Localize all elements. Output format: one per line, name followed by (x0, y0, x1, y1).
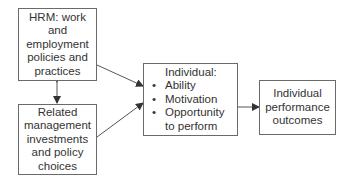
individual-box: Individual: Ability Motivation Opportuni… (143, 63, 238, 136)
arrow-hrm-individual (97, 65, 143, 86)
performance-outcomes-label: Individual performance outcomes (265, 87, 330, 127)
individual-title: Individual: (150, 66, 224, 79)
hrm-policies-label: HRM: work and employment policies and pr… (26, 11, 89, 78)
factor-ability: Ability (150, 79, 224, 92)
hrm-policies-box: HRM: work and employment policies and pr… (18, 8, 97, 81)
management-investments-box: Related management investments and polic… (18, 104, 97, 175)
performance-outcomes-box: Individual performance outcomes (259, 80, 336, 135)
factor-opportunity: Opportunity to perform (150, 106, 224, 133)
individual-factors-list: Ability Motivation Opportunity to perfor… (150, 79, 224, 133)
management-investments-label: Related management investments and polic… (24, 106, 91, 173)
arrow-management-individual (97, 103, 143, 137)
factor-motivation: Motivation (150, 93, 224, 106)
